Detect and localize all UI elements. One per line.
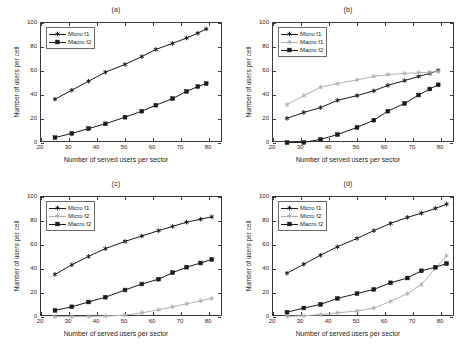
y-axis-label: Number of users per cell bbox=[245, 22, 252, 142]
legend-label: Macro f2 bbox=[300, 46, 323, 54]
legend-marker-icon bbox=[49, 212, 66, 220]
data-point-marker bbox=[434, 265, 438, 269]
series-line bbox=[287, 70, 438, 118]
subplot-title: (a) bbox=[0, 6, 232, 13]
data-point-marker bbox=[104, 122, 108, 126]
subplot-d: (d)Number of users per cellNumber of ser… bbox=[232, 174, 464, 348]
legend-item[interactable]: Micro f1 bbox=[281, 30, 323, 38]
x-tick-label: 80 bbox=[205, 144, 212, 150]
x-tick-label: 50 bbox=[353, 144, 360, 150]
data-point-marker bbox=[389, 281, 393, 285]
y-tick-mark-right bbox=[218, 317, 221, 318]
data-point-marker bbox=[417, 93, 421, 97]
legend-swatch-square-icon bbox=[49, 220, 66, 228]
legend-item[interactable]: Macro f2 bbox=[281, 220, 323, 228]
data-point-marker bbox=[386, 109, 390, 113]
x-tick-label: 40 bbox=[325, 144, 332, 150]
legend-item[interactable]: Macro f2 bbox=[281, 46, 323, 54]
y-axis-label: Number of users per cell bbox=[245, 196, 252, 316]
x-axis-label: Number of served users per sector bbox=[232, 330, 464, 337]
data-point-marker bbox=[319, 303, 323, 307]
y-tick-label: 40 bbox=[18, 91, 37, 97]
legend-label: Micro f2 bbox=[300, 212, 321, 220]
legend-marker-icon bbox=[281, 220, 298, 228]
data-point-marker bbox=[171, 97, 175, 101]
data-point-marker bbox=[185, 36, 189, 41]
y-tick-label: 40 bbox=[250, 265, 269, 271]
legend-item[interactable]: Macro f2 bbox=[49, 38, 91, 46]
y-tick-label: 60 bbox=[250, 241, 269, 247]
x-tick-label: 60 bbox=[381, 318, 388, 324]
x-tick-label: 50 bbox=[353, 318, 360, 324]
x-tick-label: 30 bbox=[297, 318, 304, 324]
y-tick-label: 20 bbox=[18, 115, 37, 121]
y-tick-label: 40 bbox=[18, 265, 37, 271]
data-point-marker bbox=[285, 271, 289, 276]
legend-marker-icon bbox=[49, 38, 66, 46]
y-tick-mark-right bbox=[450, 143, 453, 144]
legend-marker-icon bbox=[281, 204, 298, 212]
data-point-marker bbox=[302, 262, 306, 267]
legend-label: Macro f1 bbox=[300, 38, 323, 46]
legend-item[interactable]: Micro f2 bbox=[49, 212, 91, 220]
y-tick-label: 20 bbox=[18, 289, 37, 295]
data-point-marker bbox=[445, 262, 449, 266]
legend-marker-icon bbox=[49, 204, 66, 212]
legend-swatch-star-icon bbox=[49, 212, 66, 220]
legend-label: Micro f1 bbox=[300, 30, 321, 38]
data-point-marker bbox=[103, 70, 107, 75]
data-point-marker bbox=[389, 299, 393, 304]
data-point-marker bbox=[140, 54, 144, 59]
y-tick-label: 100 bbox=[18, 193, 37, 199]
data-point-marker bbox=[285, 310, 289, 314]
y-tick-label: 100 bbox=[250, 19, 269, 25]
data-point-marker bbox=[87, 127, 91, 131]
data-point-marker bbox=[405, 291, 409, 296]
data-point-marker bbox=[123, 62, 127, 67]
x-axis-label: Number of served users per sector bbox=[0, 156, 232, 163]
legend-item[interactable]: Micro f1 bbox=[49, 204, 91, 212]
data-point-marker bbox=[336, 297, 340, 301]
legend-swatch-star-icon bbox=[49, 30, 66, 38]
x-tick-label: 80 bbox=[437, 318, 444, 324]
data-point-marker bbox=[157, 277, 161, 281]
data-point-marker bbox=[87, 300, 91, 304]
series-line bbox=[55, 298, 212, 316]
x-tick-label: 70 bbox=[177, 318, 184, 324]
x-tick-label: 50 bbox=[121, 144, 128, 150]
data-point-marker bbox=[336, 133, 340, 137]
y-tick-label: 0 bbox=[250, 313, 269, 319]
x-tick-label: 20 bbox=[37, 318, 44, 324]
legend-marker-icon bbox=[49, 30, 66, 38]
x-tick-label: 40 bbox=[325, 318, 332, 324]
y-tick-label: 20 bbox=[250, 289, 269, 295]
data-point-marker bbox=[420, 269, 424, 273]
y-tick-label: 80 bbox=[18, 217, 37, 223]
y-tick-label: 80 bbox=[18, 43, 37, 49]
data-point-marker bbox=[210, 258, 214, 262]
legend-label: Micro f1 bbox=[68, 204, 89, 212]
y-tick-label: 0 bbox=[250, 139, 269, 145]
legend-item[interactable]: Macro f2 bbox=[49, 220, 91, 228]
legend-marker-icon bbox=[281, 38, 298, 46]
series-line bbox=[55, 84, 206, 138]
data-point-marker bbox=[87, 79, 91, 84]
legend-item[interactable]: Macro f1 bbox=[281, 38, 323, 46]
data-point-marker bbox=[196, 31, 200, 36]
data-point-marker bbox=[171, 271, 175, 275]
x-tick-label: 80 bbox=[205, 318, 212, 324]
data-point-marker bbox=[319, 138, 323, 142]
legend-label: Micro f1 bbox=[300, 204, 321, 212]
x-tick-label: 70 bbox=[409, 318, 416, 324]
data-point-marker bbox=[436, 83, 440, 87]
y-tick-label: 80 bbox=[250, 43, 269, 49]
y-tick-label: 40 bbox=[250, 91, 269, 97]
data-point-marker bbox=[372, 118, 376, 122]
legend-item[interactable]: Micro f1 bbox=[49, 30, 91, 38]
data-point-marker bbox=[285, 141, 289, 145]
legend-marker-icon bbox=[281, 30, 298, 38]
data-point-marker bbox=[87, 254, 91, 259]
y-axis-label: Number of users per cell bbox=[13, 22, 20, 142]
legend-item[interactable]: Micro f2 bbox=[281, 212, 323, 220]
legend-item[interactable]: Micro f1 bbox=[281, 204, 323, 212]
